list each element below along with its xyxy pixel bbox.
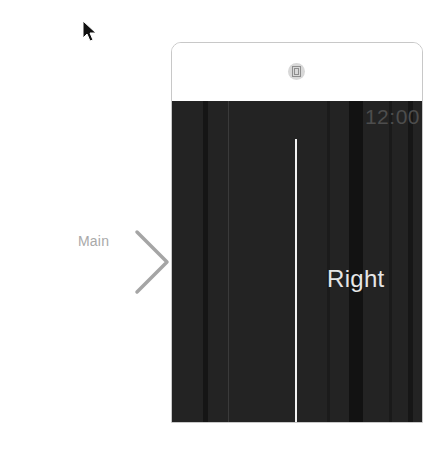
interface-controller-icon[interactable]: [288, 63, 305, 80]
interface-controller-scene[interactable]: 12:00 Right: [171, 42, 423, 423]
texture-stripe: [408, 101, 413, 423]
texture-stripe: [203, 101, 208, 423]
mouse-cursor-icon: [82, 20, 98, 44]
separator-line: [295, 139, 297, 423]
watch-screen[interactable]: 12:00 Right: [172, 101, 422, 423]
texture-stripe: [228, 101, 229, 423]
texture-stripe: [349, 101, 363, 423]
texture-stripe: [389, 101, 392, 423]
right-label[interactable]: Right: [327, 265, 385, 293]
texture-stripe: [327, 101, 330, 423]
scene-header[interactable]: [172, 43, 422, 101]
entry-point-label: Main: [78, 233, 109, 249]
status-clock: 12:00: [365, 105, 420, 129]
icon-inner-square: [294, 68, 299, 75]
